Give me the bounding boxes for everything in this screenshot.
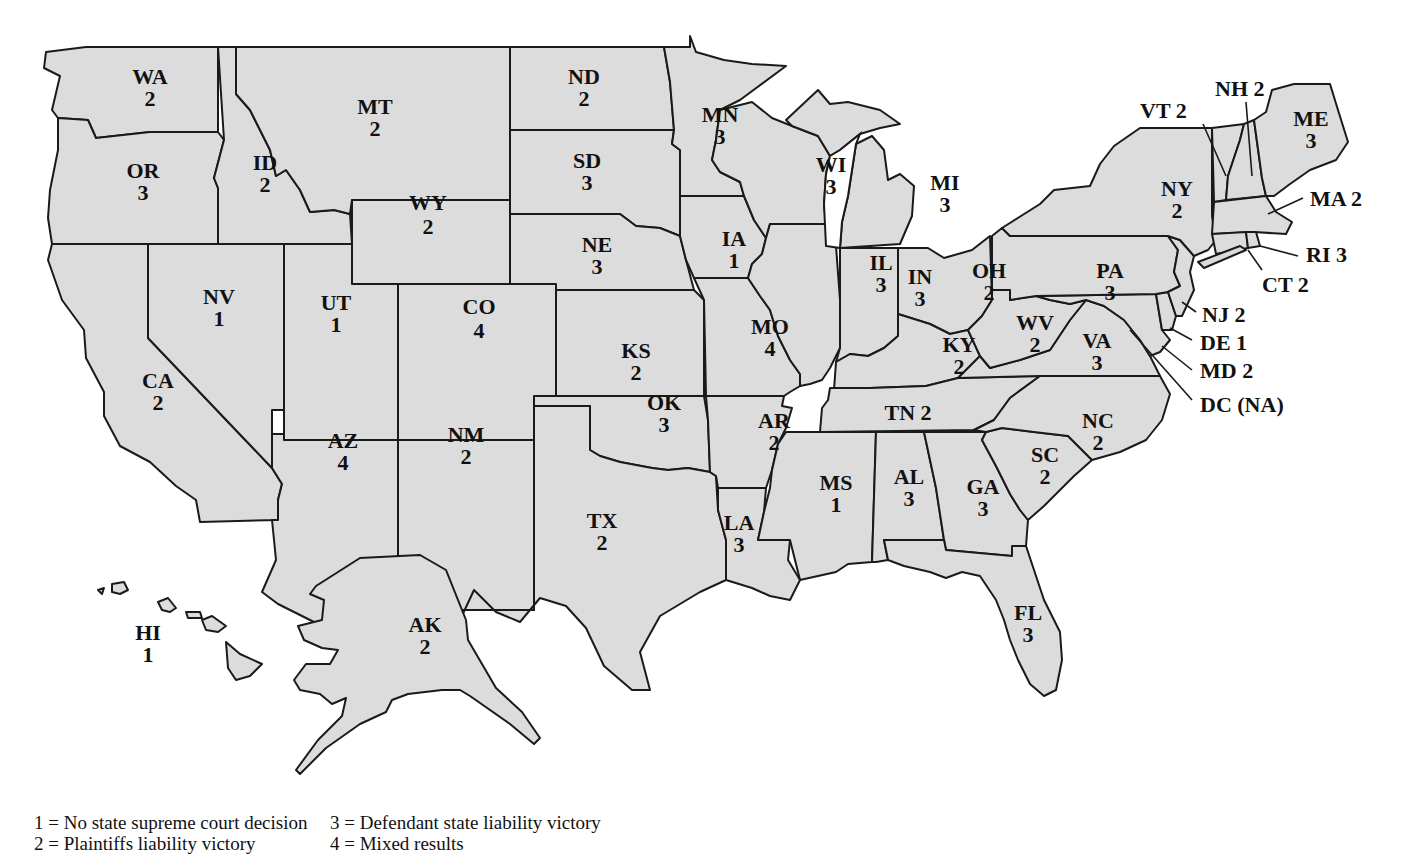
label-ok-value: 3 xyxy=(659,412,670,437)
leader-de xyxy=(1170,328,1192,340)
legend-item-4: 4 = Mixed results xyxy=(330,833,601,854)
label-oh-value: 2 xyxy=(984,280,995,305)
leader-md xyxy=(1162,346,1192,370)
label-mt-value: 2 xyxy=(370,116,381,141)
label-fl-value: 3 xyxy=(1023,622,1034,647)
label-de: DE 1 xyxy=(1200,330,1247,355)
legend-column-2: 3 = Defendant state liability victory 4 … xyxy=(330,812,601,854)
label-ny-value: 2 xyxy=(1172,198,1183,223)
label-wv-value: 2 xyxy=(1030,332,1041,357)
state-hi-1 xyxy=(98,588,104,594)
label-ky-value: 2 xyxy=(954,354,965,379)
label-ca-value: 2 xyxy=(153,390,164,415)
label-mi-value: 3 xyxy=(940,192,951,217)
state-hi-6 xyxy=(226,642,262,680)
label-wa-value: 2 xyxy=(145,86,156,111)
label-sc-value: 2 xyxy=(1040,464,1051,489)
label-ak-value: 2 xyxy=(420,634,431,659)
label-dc: DC (NA) xyxy=(1200,392,1284,417)
label-ms-value: 1 xyxy=(831,492,842,517)
label-or-value: 3 xyxy=(138,180,149,205)
state-me xyxy=(1254,84,1348,196)
label-ut-value: 1 xyxy=(331,312,342,337)
label-il-value: 3 xyxy=(876,272,887,297)
state-hi-5 xyxy=(202,616,226,632)
label-sd-value: 3 xyxy=(582,170,593,195)
label-co-value: 4 xyxy=(474,318,485,343)
label-md: MD 2 xyxy=(1200,358,1253,383)
legend-column-1: 1 = No state supreme court decision 2 = … xyxy=(34,812,307,854)
leader-ri xyxy=(1260,246,1298,256)
label-ar-value: 2 xyxy=(769,430,780,455)
label-az-value: 4 xyxy=(338,450,349,475)
label-ks-value: 2 xyxy=(631,360,642,385)
label-wy-abbr: WY xyxy=(409,190,447,215)
label-me-value: 3 xyxy=(1306,128,1317,153)
label-wy-value: 2 xyxy=(423,214,434,239)
label-ri: RI 3 xyxy=(1306,242,1347,267)
legend-item-1: 1 = No state supreme court decision xyxy=(34,812,307,833)
label-nv-value: 1 xyxy=(214,306,225,331)
state-ma xyxy=(1212,196,1292,234)
state-ri xyxy=(1246,232,1260,248)
label-tn: TN 2 xyxy=(884,400,931,425)
label-la-value: 3 xyxy=(734,532,745,557)
legend-item-2: 2 = Plaintiffs liability victory xyxy=(34,833,307,854)
label-ma: MA 2 xyxy=(1310,186,1362,211)
label-va-value: 3 xyxy=(1092,350,1103,375)
state-hi-3 xyxy=(158,598,176,612)
label-wi-value: 3 xyxy=(826,174,837,199)
label-nc-value: 2 xyxy=(1093,430,1104,455)
label-tx-value: 2 xyxy=(597,530,608,555)
label-nm-value: 2 xyxy=(461,444,472,469)
legend-item-3: 3 = Defendant state liability victory xyxy=(330,812,601,833)
label-mo-value: 4 xyxy=(765,336,776,361)
label-mn-value: 3 xyxy=(715,124,726,149)
label-hi-value: 1 xyxy=(143,642,154,667)
state-pa xyxy=(992,228,1180,300)
label-nh: NH 2 xyxy=(1215,76,1265,101)
label-ga-value: 3 xyxy=(978,496,989,521)
label-pa-value: 3 xyxy=(1105,280,1116,305)
label-co-abbr: CO xyxy=(463,294,496,319)
label-al-value: 3 xyxy=(904,486,915,511)
label-ia-value: 1 xyxy=(729,248,740,273)
leader-ct xyxy=(1248,250,1262,270)
label-in-value: 3 xyxy=(915,286,926,311)
label-id-value: 2 xyxy=(260,172,271,197)
us-map: WA 2 OR 3 ID 2 MT 2 WY 2 ND 2 SD 3 NE 3 … xyxy=(0,0,1408,854)
label-ct: CT 2 xyxy=(1262,272,1309,297)
state-hi-4 xyxy=(186,612,202,618)
state-hi-2 xyxy=(112,582,128,594)
label-nj: NJ 2 xyxy=(1202,302,1245,327)
label-ne-value: 3 xyxy=(592,254,603,279)
label-vt: VT 2 xyxy=(1140,98,1187,123)
label-nd-value: 2 xyxy=(579,86,590,111)
